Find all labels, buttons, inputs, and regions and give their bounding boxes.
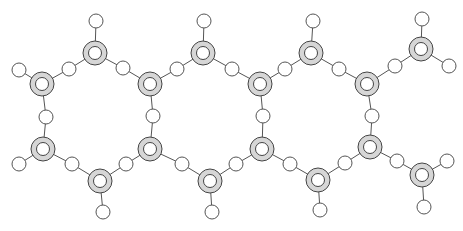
small-atom (96, 205, 110, 219)
large-atom-core (197, 47, 210, 60)
small-atom (442, 59, 456, 73)
small-atom (388, 59, 402, 73)
large-atom (31, 137, 55, 161)
large-atom (83, 41, 107, 65)
large-atom-core (254, 78, 267, 91)
small-atom (440, 154, 454, 168)
large-atom-core (144, 143, 157, 156)
large-atom (248, 72, 272, 96)
large-atom (138, 72, 162, 96)
large-atom (30, 72, 54, 96)
small-atom (365, 109, 379, 123)
large-atom-core (312, 174, 325, 187)
small-atom (417, 200, 431, 214)
large-atom (299, 41, 323, 65)
large-atom (358, 135, 382, 159)
large-atom (409, 37, 433, 61)
large-atom (306, 168, 330, 192)
large-atom-core (416, 169, 429, 182)
large-atom-core (36, 78, 49, 91)
small-atom (39, 110, 53, 124)
small-atom (89, 14, 103, 28)
small-atom (306, 14, 320, 28)
small-atom (225, 62, 239, 76)
large-atom (88, 169, 112, 193)
large-atom (138, 137, 162, 161)
large-atom-core (37, 143, 50, 156)
small-atom (116, 61, 130, 75)
small-atom (12, 157, 26, 171)
small-atom (65, 157, 79, 171)
small-atom (415, 12, 429, 26)
large-atom-core (361, 78, 374, 91)
large-atom-core (305, 47, 318, 60)
large-atom-core (415, 43, 428, 56)
small-atom (338, 156, 352, 170)
small-atom (313, 203, 327, 217)
large-atom-core (144, 78, 157, 91)
small-atom (62, 62, 76, 76)
small-atom (175, 157, 189, 171)
large-atom-core (94, 175, 107, 188)
large-atom (410, 163, 434, 187)
small-atom (12, 63, 26, 77)
bonds-layer (19, 19, 449, 212)
large-atom (355, 72, 379, 96)
small-atom (119, 157, 133, 171)
large-atom-core (204, 175, 217, 188)
large-atom-core (256, 143, 269, 156)
large-atom (250, 137, 274, 161)
molecule-diagram (0, 0, 463, 231)
small-atoms-layer (12, 12, 456, 219)
small-atom (197, 14, 211, 28)
small-atom (146, 109, 160, 123)
large-atom-core (364, 141, 377, 154)
large-atom (191, 41, 215, 65)
small-atom (278, 62, 292, 76)
small-atom (205, 205, 219, 219)
large-atom-core (89, 47, 102, 60)
small-atom (332, 62, 346, 76)
large-atom (198, 169, 222, 193)
small-atom (390, 154, 404, 168)
small-atom (170, 62, 184, 76)
small-atom (283, 157, 297, 171)
small-atom (256, 109, 270, 123)
small-atom (229, 157, 243, 171)
